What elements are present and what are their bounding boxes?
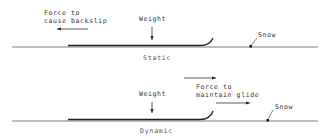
static-weight-label: Weight [139,15,166,23]
static-force-label-line1: Force to [44,9,80,17]
dynamic-caption: Dynamic [140,127,173,135]
static-snow-leader [251,38,257,46]
static-snow-label: Snow [258,31,276,39]
dynamic-snow-label: Snow [275,103,293,111]
static-snow-dot [250,45,253,48]
static-panel: Force to cause backslip Weight Snow Stat… [12,9,318,62]
ski-friction-diagram: Force to cause backslip Weight Snow Stat… [0,0,328,138]
dynamic-snow-dot [267,119,270,122]
static-caption: Static [143,54,171,62]
dynamic-force-label-line1: Force to [196,83,232,91]
dynamic-snow-leader [268,110,273,119]
static-force-label-line2: cause backslip [44,17,107,25]
dynamic-ski [68,111,213,120]
dynamic-force-label-line2: maintain glide [196,91,259,99]
dynamic-weight-label: Weight [139,90,166,98]
dynamic-panel: Force to maintain glide Weight Snow Dyna… [12,78,318,135]
static-ski [68,38,213,46]
